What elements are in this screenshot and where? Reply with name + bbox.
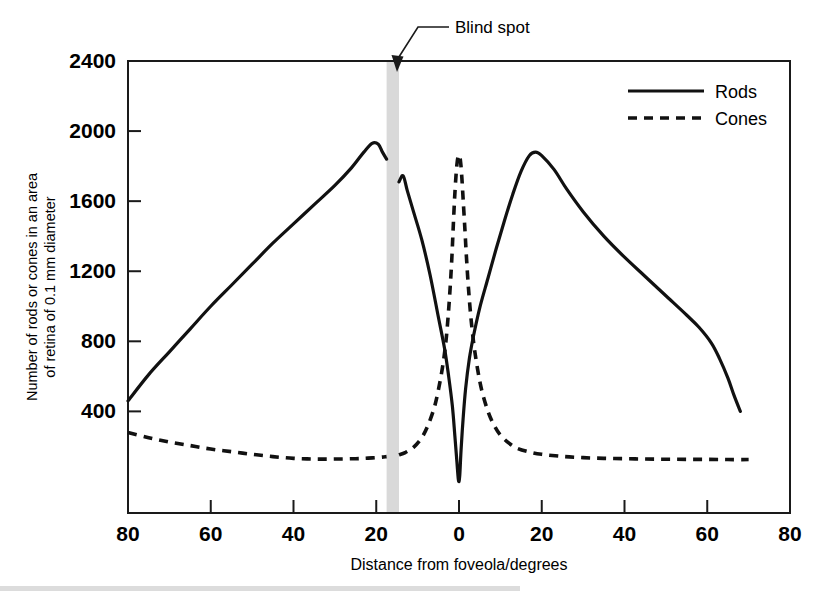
figure-rod-cone-density: 80604020020406080 4008001200160020002400… <box>0 0 816 599</box>
blind-spot-label: Blind spot <box>455 18 530 37</box>
scan-artifact <box>0 586 520 591</box>
legend-label-rods: Rods <box>715 82 757 102</box>
y-tick-label: 2000 <box>69 119 116 142</box>
y-tick-label: 1600 <box>69 189 116 212</box>
plot-frame <box>128 61 790 513</box>
x-tick-label: 80 <box>778 522 801 545</box>
x-tick-label: 60 <box>696 522 719 545</box>
x-tick-label: 0 <box>453 522 465 545</box>
blind-spot-band <box>387 61 399 513</box>
y-tick-label: 2400 <box>69 49 116 72</box>
x-tick-label: 60 <box>199 522 222 545</box>
x-axis-tick-labels: 80604020020406080 <box>116 522 801 545</box>
y-tick-label: 400 <box>81 399 116 422</box>
y-axis-ticks <box>128 131 141 411</box>
chart-canvas: 80604020020406080 4008001200160020002400… <box>0 0 816 599</box>
blind-spot-annotation: Blind spot <box>392 18 530 72</box>
blind-spot-leader-line <box>397 27 449 60</box>
y-tick-label: 800 <box>81 329 116 352</box>
x-axis-ticks <box>128 500 790 513</box>
x-tick-label: 40 <box>613 522 636 545</box>
series-line-cones <box>128 155 749 460</box>
legend: Rods Cones <box>628 82 767 129</box>
legend-label-cones: Cones <box>715 109 767 129</box>
y-axis-tick-labels: 4008001200160020002400 <box>69 49 116 422</box>
x-tick-label: 40 <box>282 522 305 545</box>
x-tick-label: 20 <box>365 522 388 545</box>
x-axis-title: Distance from foveola/degrees <box>351 556 568 573</box>
y-tick-label: 1200 <box>69 259 116 282</box>
x-tick-label: 20 <box>530 522 553 545</box>
series-line-rods <box>128 143 740 482</box>
x-tick-label: 80 <box>116 522 139 545</box>
y-axis-title-line1: Number of rods or cones in an area <box>24 172 40 401</box>
y-axis-title-line2: of retina of 0.1 mm diameter <box>42 196 58 377</box>
